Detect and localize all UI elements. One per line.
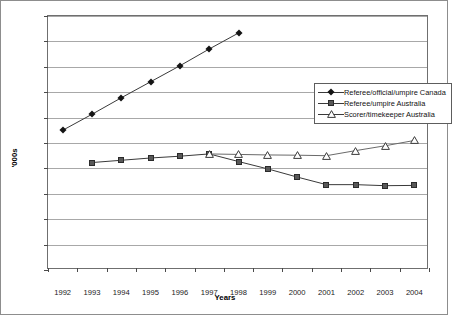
plot-area: 01002003004005006007008009001,000 199219…	[47, 15, 428, 269]
square-marker	[294, 174, 300, 180]
series-line	[92, 154, 414, 186]
legend-swatch	[318, 109, 344, 120]
x-tick-label: 2001	[318, 288, 335, 297]
series-lines	[48, 16, 429, 270]
square-marker	[323, 182, 329, 188]
square-marker	[118, 157, 124, 163]
x-tick-label: 2000	[289, 288, 306, 297]
square-marker	[328, 100, 334, 106]
x-tick-label: 1995	[142, 288, 159, 297]
chart-legend: Referee/official/umpire CanadaReferee/um…	[314, 83, 452, 124]
legend-label: Scorer/timekeeper Australia	[344, 109, 435, 120]
legend-item: Scorer/timekeeper Australia	[318, 109, 446, 120]
square-marker	[265, 166, 271, 172]
legend-swatch	[318, 98, 344, 109]
square-marker	[148, 155, 154, 161]
y-axis-title: '000s	[10, 148, 19, 167]
legend-swatch	[318, 87, 344, 98]
legend-item: Referee/official/umpire Canada	[318, 87, 446, 98]
square-marker	[353, 182, 359, 188]
x-tick-label: 1993	[84, 288, 101, 297]
x-tick-label: 2003	[377, 288, 394, 297]
x-tick-label: 1998	[230, 288, 247, 297]
legend-item: Referee/umpire Australia	[318, 98, 446, 109]
x-tick-label: 2004	[406, 288, 423, 297]
x-tick-label: 1992	[54, 288, 71, 297]
x-tick-label: 2002	[347, 288, 364, 297]
square-marker	[411, 182, 417, 188]
square-marker	[236, 159, 242, 165]
x-tick-label: 1999	[259, 288, 276, 297]
x-tick-label: 1997	[201, 288, 218, 297]
x-tick-label: 1996	[171, 288, 188, 297]
legend-label: Referee/umpire Australia	[344, 98, 425, 109]
x-tick-label: 1994	[113, 288, 130, 297]
square-marker	[177, 153, 183, 159]
legend-label: Referee/official/umpire Canada	[344, 87, 446, 98]
square-marker	[382, 183, 388, 189]
x-tick-mark	[429, 268, 430, 272]
square-marker	[89, 160, 95, 166]
diamond-marker	[327, 88, 334, 95]
